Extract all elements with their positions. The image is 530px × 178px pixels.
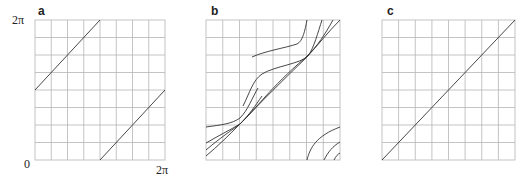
panel-b-curve-1	[252, 20, 307, 57]
y-axis-max-label: 2π	[12, 13, 24, 27]
panel-c-letter: c	[387, 4, 394, 18]
panel-b-letter: b	[211, 4, 218, 18]
panel-b-curve-9	[334, 153, 340, 160]
figure: a 2π 0 2π b	[0, 0, 530, 178]
panel-b-curve-3	[206, 20, 333, 150]
panel-a: a 2π 0 2π	[12, 4, 168, 177]
panel-b-curve-8	[324, 142, 340, 160]
panel-b-curve-6	[206, 96, 262, 143]
panel-b: b	[206, 4, 340, 160]
origin-label: 0	[24, 157, 30, 171]
panel-a-letter: a	[38, 4, 45, 18]
x-axis-max-label: 2π	[156, 163, 168, 177]
panel-a-grid	[35, 20, 165, 160]
panel-c: c	[382, 4, 515, 160]
